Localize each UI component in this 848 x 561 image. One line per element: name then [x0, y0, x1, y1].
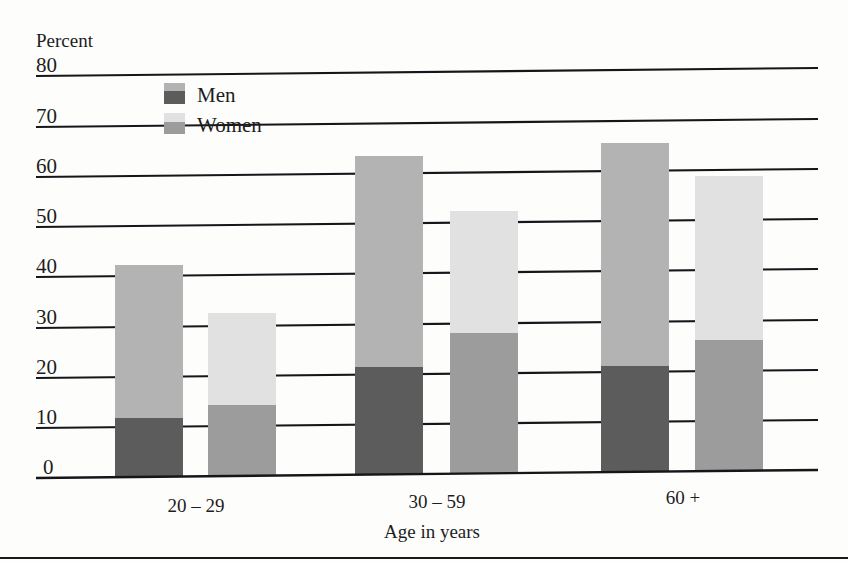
legend-swatch-men-top	[164, 83, 185, 91]
legend-label-men: Men	[197, 83, 236, 107]
legend-item-women[interactable]: Women	[164, 113, 262, 137]
bar-segment-men-upper-30-59	[355, 156, 423, 367]
legend-item-men[interactable]: Men	[164, 83, 236, 107]
bar-segment-women-upper-20-29	[208, 313, 276, 405]
y-tick-80: 80	[36, 53, 57, 77]
y-tick-60: 60	[36, 154, 57, 178]
legend-swatch-women-bottom	[164, 122, 185, 134]
y-axis-tick-labels: 80 70 60 50 40 30 20 10 0	[36, 53, 57, 479]
bar-segment-women-lower-30-59	[450, 333, 518, 473]
gridline-80	[36, 68, 818, 76]
x-axis-title: Age in years	[384, 521, 480, 542]
bar-women-20-29[interactable]	[208, 313, 276, 476]
legend-swatch-women-top	[164, 113, 185, 122]
bar-group-30-59	[355, 156, 518, 474]
chart-legend: Men Women	[164, 83, 262, 137]
bar-group-20-29	[115, 265, 276, 477]
legend-label-women: Women	[197, 113, 262, 137]
bar-segment-women-upper-30-59	[450, 211, 518, 333]
y-tick-50: 50	[36, 204, 57, 228]
gridline-70	[36, 119, 818, 127]
bar-segment-men-lower-30-59	[355, 367, 423, 474]
bar-group-60-plus	[601, 143, 763, 472]
bar-women-60-plus[interactable]	[695, 176, 763, 471]
y-tick-0: 0	[43, 455, 54, 479]
y-tick-40: 40	[36, 254, 57, 278]
bar-segment-men-upper-60-plus	[601, 143, 669, 366]
y-tick-70: 70	[36, 104, 57, 128]
y-tick-10: 10	[36, 405, 57, 429]
bar-men-20-29[interactable]	[115, 265, 183, 477]
x-tick-20-29: 20 – 29	[168, 495, 225, 516]
bar-chart: 80 70 60 50 40 30 20 10 0 Percent Men Wo…	[0, 0, 848, 561]
chart-page: 80 70 60 50 40 30 20 10 0 Percent Men Wo…	[0, 0, 848, 561]
bar-segment-women-lower-20-29	[208, 405, 276, 476]
x-tick-30-59: 30 – 59	[409, 491, 466, 512]
y-tick-20: 20	[36, 355, 57, 379]
bar-men-30-59[interactable]	[355, 156, 423, 474]
bar-segment-women-lower-60-plus	[695, 340, 763, 471]
gridline-60	[36, 169, 818, 177]
bar-women-30-59[interactable]	[450, 211, 518, 473]
y-tick-30: 30	[36, 305, 57, 329]
x-axis-tick-labels: 20 – 29 30 – 59 60 +	[168, 487, 701, 516]
bar-segment-men-lower-20-29	[115, 418, 183, 477]
legend-swatch-men-bottom	[164, 91, 185, 104]
bar-segment-men-lower-60-plus	[601, 366, 669, 472]
bar-men-60-plus[interactable]	[601, 143, 669, 472]
bar-segment-women-upper-60-plus	[695, 176, 763, 340]
x-tick-60-plus: 60 +	[666, 487, 700, 508]
y-axis-title: Percent	[36, 30, 94, 51]
bar-segment-men-upper-20-29	[115, 265, 183, 418]
